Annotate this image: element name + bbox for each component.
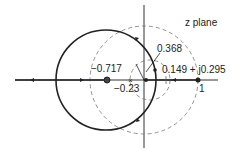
arrow-icon bbox=[30, 78, 34, 82]
crossing-point bbox=[153, 68, 157, 72]
label-crossing: 0.149 + j0.295 bbox=[162, 65, 226, 75]
label-one: 1 bbox=[199, 84, 205, 94]
arrow-icon bbox=[80, 78, 84, 82]
radius-arrow bbox=[136, 64, 144, 80]
label-zero: −0.717 bbox=[91, 64, 122, 74]
plane-title: z plane bbox=[185, 18, 217, 28]
zero-marker bbox=[104, 77, 110, 83]
pole-origin bbox=[144, 78, 148, 82]
label-breakaway: −0.23 bbox=[114, 84, 139, 94]
arrow-icon bbox=[172, 78, 176, 82]
leader-line bbox=[146, 53, 160, 72]
pole-one bbox=[196, 78, 201, 83]
label-0368: 0.368 bbox=[157, 44, 182, 54]
